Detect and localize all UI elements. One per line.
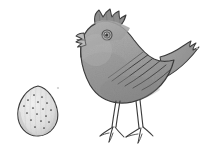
egg-speckle [50,109,52,111]
egg-speckle [37,101,39,103]
drawing-surface [0,0,205,162]
egg-speckle [23,105,25,107]
egg-speckle [42,108,44,110]
egg-speckle [46,102,48,104]
egg-speckle [33,94,35,96]
egg-speckle [41,96,43,98]
egg-speckle [45,115,47,117]
egg-speckle [26,112,28,114]
egg-speckle [40,120,42,122]
egg-speckle [48,121,50,123]
egg-speckle [36,113,38,115]
stray-dot-right [196,47,198,49]
sketch-canvas: Pencil sketch of a speckled egg and a gr… [0,0,205,162]
egg-speckle [30,119,32,121]
stray-dot-upper [57,87,59,89]
egg-speckle [34,126,36,128]
egg-speckle [27,99,29,101]
egg-speckle [32,107,34,109]
eye-highlight [105,33,106,34]
egg-speckle [43,127,45,129]
